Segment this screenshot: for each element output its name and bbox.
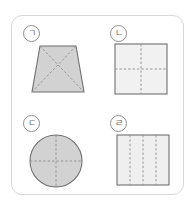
square-quartered-figure <box>113 42 171 100</box>
worksheet-root: ㄱ ㄴ ㄷ <box>0 0 195 210</box>
striped-square-outline <box>117 135 169 185</box>
label-digeut: ㄷ <box>23 115 40 132</box>
figure-cell-2[interactable]: ㄴ <box>99 16 185 106</box>
figure-cell-3[interactable]: ㄷ <box>12 106 99 196</box>
circle-quartered-figure <box>28 133 86 191</box>
label-rieul: ㄹ <box>110 115 127 132</box>
label-giyeok: ㄱ <box>23 25 40 42</box>
label-nieun: ㄴ <box>110 25 127 42</box>
figures-card: ㄱ ㄴ ㄷ <box>11 15 184 195</box>
trapezoid-outline <box>32 46 84 92</box>
figure-cell-4[interactable]: ㄹ <box>99 106 185 196</box>
square-striped-figure <box>115 133 173 191</box>
figure-cell-1[interactable]: ㄱ <box>12 16 99 106</box>
trapezoid-figure <box>30 44 86 100</box>
